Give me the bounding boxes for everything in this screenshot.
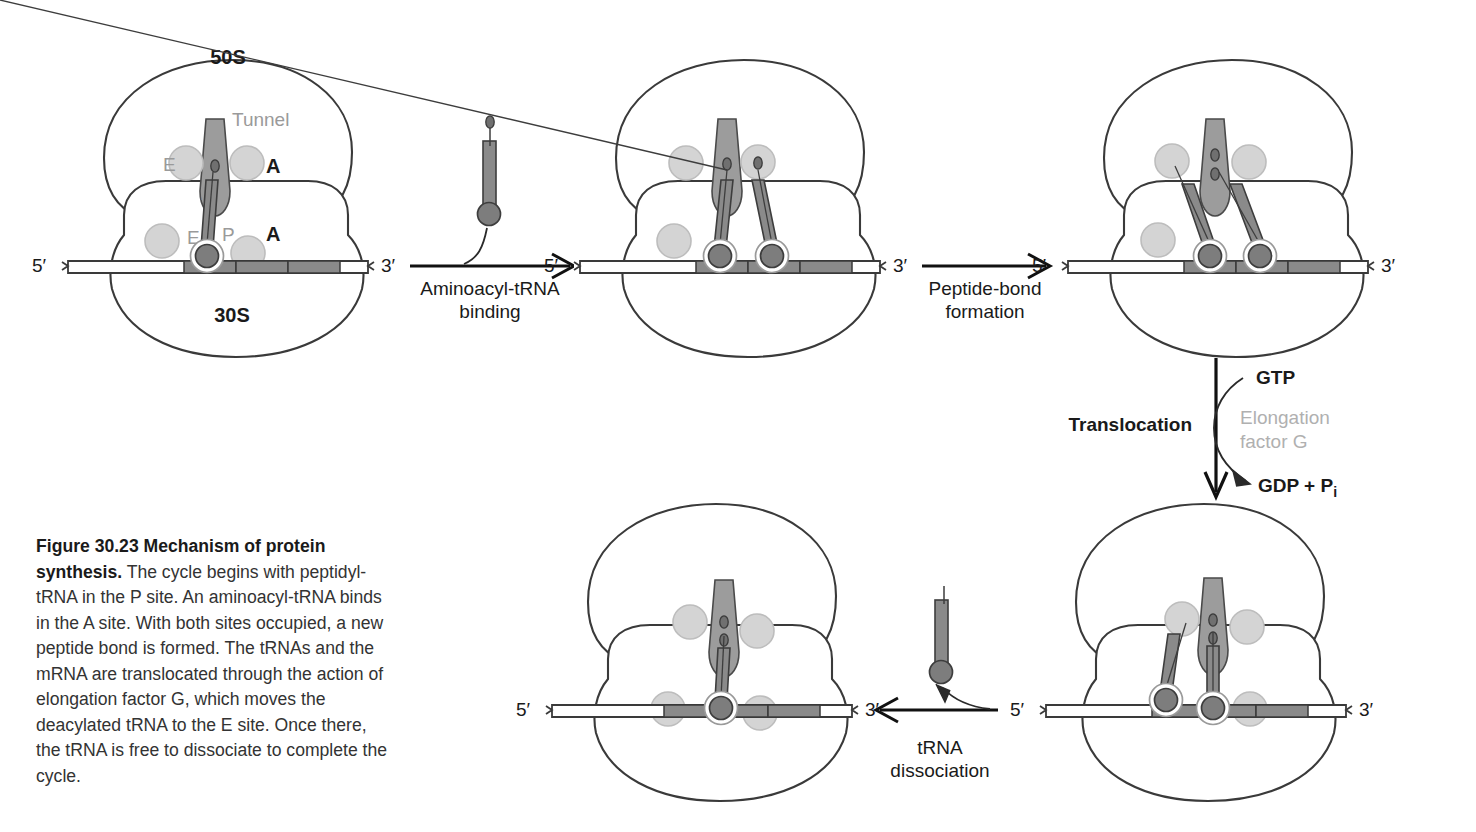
panel-ribosome-initial-state: 50S 30S Tunnel E A P E P A 5′ xyxy=(32,46,396,357)
codon-3 xyxy=(1256,705,1308,717)
panel-ribosome-translocated: 5′ 3′ xyxy=(1010,504,1374,801)
label-50s: 50S xyxy=(210,46,246,68)
label-5prime-p3: 5′ xyxy=(1032,255,1047,276)
label-3prime-p5: 3′ xyxy=(865,699,880,720)
mrna-strand xyxy=(546,705,858,717)
step-trna-dissociation: tRNA dissociation xyxy=(876,586,998,781)
anticodon-loop xyxy=(930,661,953,684)
codon-2 xyxy=(236,261,288,273)
label-elongation-factor-line1: Elongation xyxy=(1240,407,1330,428)
panel-ribosome-peptide-bond-formed: 5′ 3′ xyxy=(1032,60,1396,357)
peptide-bead-1 xyxy=(1211,149,1219,161)
site-circle-e-50s xyxy=(673,605,707,639)
cofactor-curve xyxy=(1214,378,1246,481)
dissociation-arrowhead xyxy=(936,684,950,702)
cofactor-arrowhead xyxy=(1232,470,1250,486)
released-deacylated-trna xyxy=(930,586,991,709)
site-circle-a-50s xyxy=(1230,610,1264,644)
peptide-bead-1 xyxy=(720,616,728,628)
peptide-bead-1 xyxy=(211,160,219,172)
step-label-line1: Aminoacyl-tRNA xyxy=(420,278,560,299)
step-label-line2: dissociation xyxy=(890,760,989,781)
amino-acid-bead xyxy=(754,157,762,169)
step-peptide-bond-formation: Peptide-bond formation xyxy=(922,254,1050,322)
label-5prime-p1: 5′ xyxy=(32,255,47,276)
label-30s: 30S xyxy=(214,304,250,326)
panel-ribosome-trna-released: 5′ 3′ xyxy=(516,504,880,801)
figure-root: 50S 30S Tunnel E A P E P A 5′ xyxy=(0,0,1476,832)
site-circle-a-50s xyxy=(740,614,774,648)
label-3prime-p4: 3′ xyxy=(1359,699,1374,720)
step-aminoacyl-trna-binding: Aminoacyl-tRNA binding xyxy=(410,116,574,322)
label-e-50s: E xyxy=(163,154,176,175)
incoming-aminoacyl-trna xyxy=(464,116,501,264)
codon-3 xyxy=(288,261,340,273)
label-5prime-p4: 5′ xyxy=(1010,699,1025,720)
label-p-30s: P xyxy=(222,224,235,245)
label-5prime-p2: 5′ xyxy=(544,255,559,276)
label-gtp: GTP xyxy=(1256,367,1295,388)
figure-caption: Figure 30.23 Mechanism of protein synthe… xyxy=(36,534,388,789)
figure-number: Figure 30.23 xyxy=(36,536,139,556)
step-label-line1: Peptide-bond xyxy=(928,278,1041,299)
label-a-50s: A xyxy=(266,155,280,177)
label-gdp-pi: GDP + Pi xyxy=(1258,475,1337,500)
site-circle-e-30s xyxy=(1141,223,1175,257)
amino-acid-bead xyxy=(486,116,494,128)
label-tunnel: Tunnel xyxy=(232,109,289,130)
peptide-bead-1 xyxy=(1209,614,1217,626)
label-a-30s: A xyxy=(266,223,280,245)
label-3prime-p3: 3′ xyxy=(1381,255,1396,276)
label-5prime-p5: 5′ xyxy=(516,699,531,720)
codon-3 xyxy=(800,261,852,273)
site-circle-e-50s xyxy=(1155,144,1189,178)
step-label-line2: binding xyxy=(459,301,520,322)
label-elongation-factor-line2: factor G xyxy=(1240,431,1308,452)
site-circle-e-50s xyxy=(1165,602,1199,636)
step-translocation: Translocation GTP GDP + Pi Elongation fa… xyxy=(1068,358,1337,500)
figure-caption-body: The cycle begins with peptidyl-tRNA in t… xyxy=(36,562,387,786)
binding-path xyxy=(464,228,487,264)
step-label-line2: formation xyxy=(945,301,1024,322)
site-circle-a-50s xyxy=(1232,145,1266,179)
codon-3 xyxy=(1288,261,1340,273)
step-label-line1: tRNA xyxy=(917,737,963,758)
label-3prime-p2: 3′ xyxy=(893,255,908,276)
peptide-bead-1 xyxy=(723,158,731,170)
site-circle-a-50s xyxy=(230,146,264,180)
codon-3 xyxy=(768,705,820,717)
peptide-bead-2 xyxy=(1211,168,1219,180)
site-circle-e-30s xyxy=(657,224,691,258)
anticodon-loop xyxy=(478,203,501,226)
label-3prime-p1: 3′ xyxy=(381,255,396,276)
label-translocation: Translocation xyxy=(1068,414,1192,435)
site-circle-e-30s xyxy=(145,224,179,258)
